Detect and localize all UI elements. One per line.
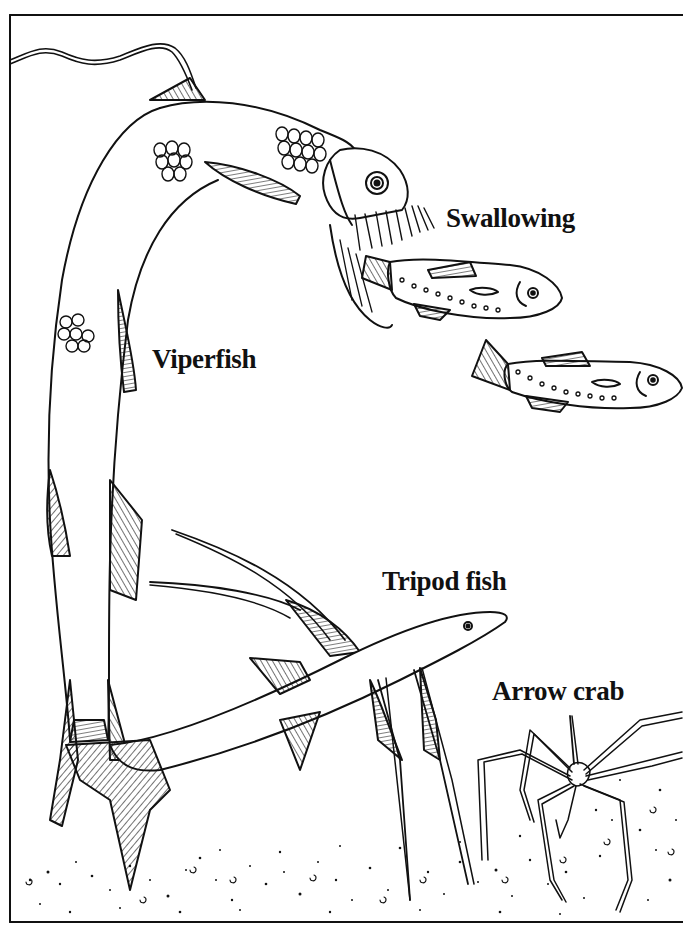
- label-viperfish: Viperfish: [152, 344, 256, 375]
- coloring-page: Swallowing Viperfish Tripod fish Arrow c…: [0, 0, 683, 930]
- illustration: [0, 0, 683, 930]
- label-tripod-fish: Tripod fish: [382, 566, 507, 597]
- viperfish-figure: [10, 44, 434, 826]
- prey-fish-2-figure: [472, 340, 682, 412]
- prey-fish-1-figure: [362, 256, 562, 320]
- label-arrow-crab: Arrow crab: [492, 676, 624, 707]
- label-swallowing: Swallowing: [446, 203, 575, 234]
